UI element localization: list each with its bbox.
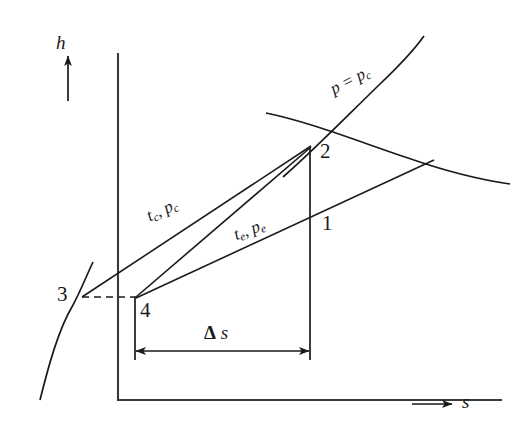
state-point-label-4: 4 xyxy=(140,300,151,321)
process-line-4-to-1 xyxy=(136,160,434,298)
process-line-4-to-2 xyxy=(136,147,311,297)
hs-diagram-figure: h s p = pc tc, pc te, pe 1 2 3 4 Δ s xyxy=(0,0,526,423)
diagram-canvas xyxy=(0,0,526,423)
saturated-vapour-curve xyxy=(266,113,510,184)
delta-s-variable: s xyxy=(221,322,228,343)
delta-symbol: Δ xyxy=(204,322,216,343)
x-axis-label: s xyxy=(462,392,469,411)
state-point-label-1: 1 xyxy=(322,213,333,234)
process-line-3-to-2 xyxy=(82,146,311,297)
cropped-caption-artifact xyxy=(96,0,396,6)
delta-s-label: Δ s xyxy=(204,323,228,342)
y-axis-label: h xyxy=(56,33,66,52)
state-point-label-2: 2 xyxy=(320,141,331,162)
state-point-label-3: 3 xyxy=(57,284,68,305)
